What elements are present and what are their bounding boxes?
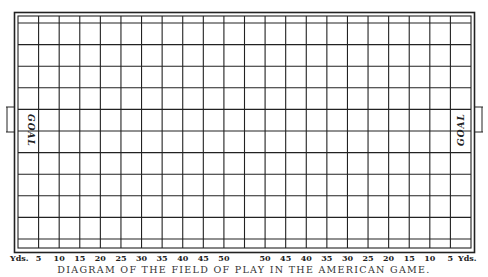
football-field-diagram bbox=[0, 0, 488, 277]
yard-label: 40 bbox=[177, 253, 188, 263]
yard-label: 15 bbox=[404, 253, 415, 263]
yard-label: 10 bbox=[54, 253, 65, 263]
yard-label: 50 bbox=[260, 253, 271, 263]
yard-label: 45 bbox=[280, 253, 291, 263]
yard-label: 5 bbox=[448, 253, 454, 263]
yard-label: 45 bbox=[198, 253, 209, 263]
yard-label: 10 bbox=[424, 253, 435, 263]
yard-label: 50 bbox=[218, 253, 229, 263]
yard-label: 35 bbox=[157, 253, 168, 263]
goal-label-right: GOAL bbox=[456, 113, 466, 146]
yard-label: 40 bbox=[301, 253, 312, 263]
yard-label: 20 bbox=[95, 253, 106, 263]
yard-label: 25 bbox=[115, 253, 126, 263]
diagram-caption: DIAGRAM OF THE FIELD OF PLAY IN THE AMER… bbox=[0, 264, 488, 275]
yard-label: 25 bbox=[362, 253, 373, 263]
yard-label: 15 bbox=[74, 253, 85, 263]
yard-label: 20 bbox=[383, 253, 394, 263]
goal-label-left: GOAL bbox=[26, 114, 36, 147]
yard-label: 5 bbox=[36, 253, 42, 263]
yard-label: 35 bbox=[321, 253, 332, 263]
yards-unit-label-right: Yds. bbox=[458, 253, 477, 263]
yards-unit-label-left: Yds. bbox=[10, 253, 29, 263]
yard-label: 30 bbox=[342, 253, 353, 263]
yard-label: 30 bbox=[136, 253, 147, 263]
